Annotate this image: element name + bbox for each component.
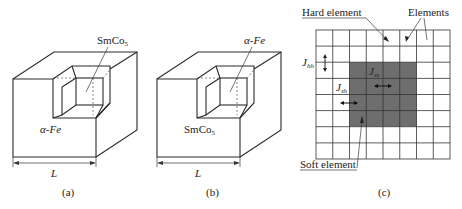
elements-label: Elements: [408, 7, 449, 18]
inner-label-b: α-Fe: [244, 35, 265, 46]
outer-label-a: α-Fe: [40, 124, 61, 135]
jss-label: Jss: [369, 66, 379, 79]
cube-b: [157, 47, 281, 167]
outer-label-b: SmCo5: [184, 124, 215, 137]
inner-label-a: SmCo5: [97, 35, 128, 48]
jhh-arrow: [323, 54, 327, 72]
soft-element-label: Soft element: [300, 159, 356, 170]
caption-b: (b): [206, 187, 219, 198]
dimension-label-a: L: [51, 168, 57, 179]
caption-c: (c): [378, 187, 390, 198]
caption-a: (a): [62, 187, 74, 198]
dimension-label-b: L: [195, 168, 201, 179]
hard-element-label: Hard element: [302, 7, 362, 18]
jhh-label: Jhh: [302, 57, 314, 70]
jsh-label: Jsh: [336, 82, 347, 95]
element-grid: [300, 18, 450, 170]
figure-canvas: [0, 0, 462, 209]
cube-a: [13, 47, 137, 167]
